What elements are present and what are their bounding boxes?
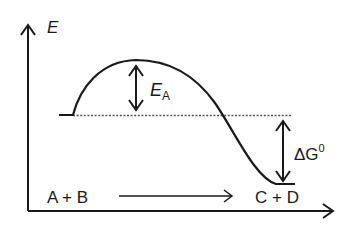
reaction-direction-arrow — [119, 190, 232, 202]
energy-diagram: E EA ΔG0 A + B C + D — [0, 0, 350, 227]
reactants-label: A + B — [47, 188, 88, 207]
energy-curve — [59, 60, 295, 184]
free-energy-change-label: ΔG0 — [294, 142, 325, 164]
products-label: C + D — [255, 188, 299, 207]
activation-energy-arrow — [129, 66, 143, 110]
activation-energy-label: EA — [150, 80, 170, 103]
y-axis-label: E — [47, 18, 59, 37]
free-energy-change-arrow — [276, 121, 290, 181]
